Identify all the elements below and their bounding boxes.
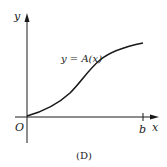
tick-label-b: b [139,123,146,136]
origin-label: O [15,121,24,134]
curve-label: y = A(x) [60,53,102,64]
graph-figure: y x O b y = A(x) (D) [0,0,167,167]
y-axis-arrow-icon [25,13,30,22]
x-axis-arrow-icon [150,115,159,120]
x-axis-label: x [152,121,159,134]
figure-caption: (D) [76,150,92,161]
y-axis-label: y [13,10,21,23]
